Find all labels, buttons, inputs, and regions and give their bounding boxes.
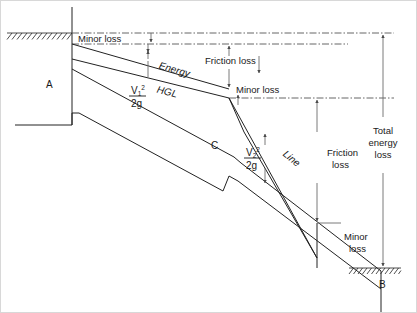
- label-total-energy-loss-line3: loss: [375, 149, 392, 160]
- energy-grade-line: [72, 44, 317, 258]
- velocity-head-1-sub: 1: [138, 89, 142, 96]
- label-friction-loss-top: Friction loss: [205, 55, 256, 66]
- velocity-head-2-sup: 2: [256, 145, 260, 152]
- pipe-upper-segment: [72, 69, 234, 191]
- pipe-contraction-step: [223, 157, 241, 191]
- label-velocity-head-2: V22 2g: [244, 145, 261, 170]
- label-hgl-line: HGL: [156, 84, 179, 100]
- label-friction-loss-right-line2: loss: [332, 159, 349, 170]
- label-minor-loss-bottom-line2: loss: [349, 243, 366, 254]
- label-point-c: C: [211, 140, 218, 151]
- velocity-head-1-denom: 2g: [131, 98, 142, 109]
- reservoir-a-structure: [15, 7, 79, 125]
- label-velocity-head-1: V12 2g: [129, 83, 146, 108]
- velocity-head-2-denom: 2g: [246, 160, 257, 171]
- velocity-head-1-sup: 2: [141, 83, 145, 90]
- label-minor-loss-top: Minor loss: [78, 33, 122, 44]
- label-point-a: A: [46, 79, 53, 90]
- label-energy-line: Energy: [158, 60, 192, 79]
- exit-loss-drop: [317, 223, 341, 268]
- label-line: Line: [281, 148, 303, 169]
- diagram-canvas: Minor loss Energy HGL Line Friction loss…: [0, 0, 417, 313]
- label-friction-loss-right-line1: Friction: [327, 147, 358, 158]
- label-minor-loss-bottom-line1: Minor: [344, 231, 368, 242]
- ground-hatch-left: [7, 33, 72, 40]
- label-point-b: B: [379, 279, 386, 290]
- label-total-energy-loss-line1: Total: [373, 125, 393, 136]
- label-total-energy-loss-line2: energy: [368, 137, 397, 148]
- label-minor-loss-mid: Minor loss: [236, 84, 280, 95]
- svg-text:V12: V12: [131, 83, 145, 96]
- energy-grade-line-diagram: Minor loss Energy HGL Line Friction loss…: [1, 1, 417, 313]
- velocity-head-2-sub: 2: [253, 151, 257, 158]
